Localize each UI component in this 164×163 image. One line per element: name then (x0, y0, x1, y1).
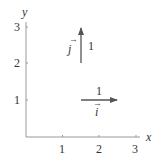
x-axis-label: x (145, 130, 152, 144)
x-tick-label-3: 3 (132, 142, 138, 156)
axes: 1 2 3 1 2 3 x y (14, 5, 152, 156)
y-tick-label-3: 3 (14, 20, 20, 34)
y-axis-label: y (21, 5, 28, 19)
vector-j: j → 1 (66, 28, 94, 63)
y-tick-label-2: 2 (14, 56, 20, 70)
vector-diagram: 1 2 3 1 2 3 x y j → 1 1 i → (0, 0, 164, 163)
vector-i-length-label: 1 (96, 84, 102, 98)
vector-j-length-label: 1 (88, 39, 94, 53)
x-tick-label-2: 2 (96, 142, 102, 156)
vector-j-hat-icon: → (69, 34, 78, 44)
vector-i: 1 i → (81, 84, 117, 119)
y-tick-label-1: 1 (14, 93, 20, 107)
x-tick-label-1: 1 (59, 142, 65, 156)
vector-j-label: j (66, 42, 72, 56)
vector-i-hat-icon: → (93, 98, 102, 108)
